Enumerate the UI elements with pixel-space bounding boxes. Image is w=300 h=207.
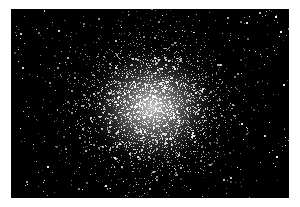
star-field <box>11 9 289 198</box>
star-cluster-photo <box>11 9 289 198</box>
